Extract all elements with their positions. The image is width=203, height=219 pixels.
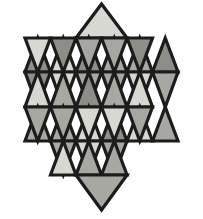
figure-canvas bbox=[0, 0, 203, 219]
star-of-david-tessellation bbox=[0, 0, 203, 219]
